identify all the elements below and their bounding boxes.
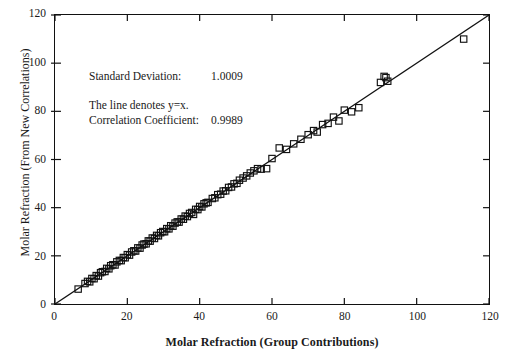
- correlation-coefficient-value: 0.9989: [211, 113, 243, 128]
- x-tick-label-20: 20: [121, 311, 133, 323]
- y-tick-label-0: 0: [12, 299, 46, 311]
- standard-deviation-value: 1.0009: [211, 69, 243, 84]
- y-tick-label-80: 80: [12, 105, 46, 117]
- scatter-plot-figure: Molar Refraction (From New Correlations)…: [0, 0, 512, 362]
- correlation-coefficient-label: Correlation Coefficient:: [89, 113, 211, 128]
- x-tick-label-80: 80: [339, 311, 351, 323]
- x-tick-label-0: 0: [51, 311, 57, 323]
- x-tick-label-100: 100: [409, 311, 426, 323]
- x-axis-title: Molar Refraction (Group Contributions): [54, 335, 490, 350]
- reference-line-note: The line denotes y=x.: [89, 99, 189, 111]
- data-point: [460, 36, 466, 42]
- data-point: [276, 145, 282, 151]
- standard-deviation-label: Standard Deviation:: [89, 69, 211, 84]
- y-tick-label-120: 120: [12, 8, 46, 20]
- statistics-annotation: Standard Deviation: 1.0009 Correlation C…: [89, 40, 243, 156]
- y-tick-label-20: 20: [12, 251, 46, 263]
- data-point: [356, 105, 362, 111]
- y-tick-label-100: 100: [12, 57, 46, 69]
- y-tick-label-60: 60: [12, 154, 46, 166]
- x-tick-label-40: 40: [194, 311, 206, 323]
- data-point: [348, 109, 354, 115]
- x-tick-label-60: 60: [266, 311, 278, 323]
- correlation-coefficient-row: Correlation Coefficient: 0.9989: [89, 113, 243, 128]
- y-tick-label-40: 40: [12, 202, 46, 214]
- x-tick-label-120: 120: [481, 311, 498, 323]
- standard-deviation-row: Standard Deviation: 1.0009: [89, 69, 243, 84]
